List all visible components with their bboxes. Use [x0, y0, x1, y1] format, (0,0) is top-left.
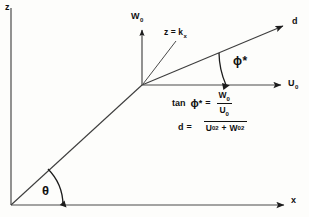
- formula-tan-equals: =: [205, 98, 210, 108]
- formula-block: tan ϕ * = W0 U0 d = U02+W02: [172, 90, 247, 133]
- w0-axis-label: W0: [131, 12, 143, 23]
- formula-tan-numerator-base: W: [219, 90, 227, 100]
- formula-tan-numerator: W0: [217, 90, 232, 104]
- formula-tan-star: *: [199, 98, 203, 108]
- formula-tan-phi-symbol: ϕ: [191, 97, 199, 109]
- u0-axis-label: U0: [288, 79, 298, 90]
- slope-label-equals: =: [171, 27, 176, 37]
- formula-tan-keyword: tan: [172, 98, 186, 108]
- d-vector-label: d: [292, 17, 298, 26]
- u0-axis-label-subscript: 0: [295, 84, 298, 90]
- slope-line-label: z=kx: [164, 28, 187, 39]
- formula-tan-fraction: W0 U0: [217, 90, 232, 116]
- u0-axis-label-base: U: [288, 78, 295, 88]
- w0-axis-label-base: W: [131, 11, 140, 21]
- theta-arc: [48, 169, 63, 205]
- formula-d-lhs: d: [178, 122, 184, 132]
- slope-line-lower-segment: [11, 85, 142, 205]
- phi-star-angle-label: ϕ*: [233, 55, 248, 67]
- formula-tan-denominator: U0: [217, 104, 230, 117]
- slope-label-x: x: [183, 33, 186, 39]
- formula-d-radical: U02+W02: [197, 121, 248, 133]
- diagram-canvas: z x W0 U0 d θ ϕ* z=kx tan ϕ * = W0 U0 d …: [0, 0, 309, 217]
- formula-tan-numerator-sub: 0: [227, 96, 230, 102]
- radical-tick: [197, 121, 204, 133]
- formula-d-equals: =: [187, 122, 192, 132]
- formula-tan-phi: tan ϕ * = W0 U0: [172, 90, 247, 116]
- w0-axis-label-subscript: 0: [140, 17, 143, 23]
- theta-angle-label: θ: [42, 184, 50, 197]
- slope-label-z: z: [164, 27, 169, 37]
- formula-tan-denominator-sub: 0: [226, 110, 229, 116]
- z-axis-label: z: [5, 3, 10, 12]
- formula-d-magnitude: d = U02+W02: [178, 121, 247, 133]
- phi-star-arc: [219, 53, 226, 85]
